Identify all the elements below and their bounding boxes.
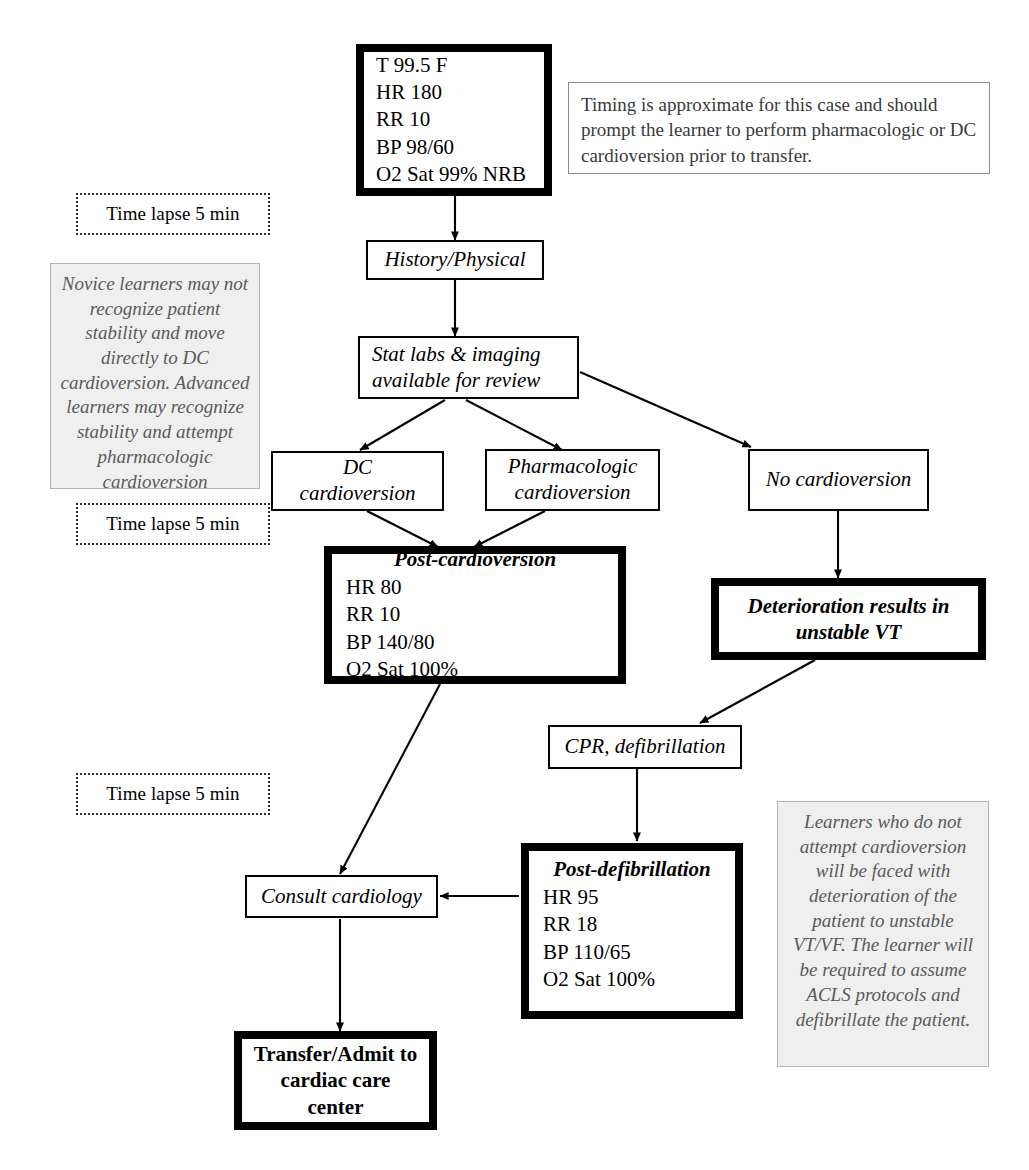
time-lapse-label: Time lapse 5 min <box>106 203 239 225</box>
note-text: Learners who do not attempt cardioversio… <box>793 811 973 1030</box>
node-post-cardioversion[interactable]: Post-cardioversion HR 80 RR 10 BP 140/80… <box>324 546 626 684</box>
node-stat-labs[interactable]: Stat labs & imaging available for review <box>358 336 579 399</box>
vital-line: HR 95 <box>543 884 721 911</box>
vital-line: RR 10 <box>376 106 532 133</box>
arrow-statlabs-to-dc <box>360 400 445 450</box>
arrow-pharm-to-postcv <box>474 511 545 547</box>
arrow-postcv-to-consult <box>340 684 440 874</box>
node-dc-cardioversion[interactable]: DC cardioversion <box>271 451 444 511</box>
node-label: Stat labs & imaging available for review <box>360 342 577 393</box>
note-text: Timing is approximate for this case and … <box>581 94 976 166</box>
vital-line: BP 98/60 <box>376 134 532 161</box>
time-lapse-label: Time lapse 5 min <box>106 513 239 535</box>
vital-line: O2 Sat 99% NRB <box>376 161 532 188</box>
vital-line: HR 80 <box>346 574 604 601</box>
node-transfer-admit[interactable]: Transfer/Admit to cardiac care center <box>234 1031 437 1130</box>
node-title: Post-cardioversion <box>346 547 604 572</box>
note-novice-learners: Novice learners may not recognize patien… <box>50 263 260 489</box>
arrow-dc-to-postcv <box>367 511 438 547</box>
time-lapse-callout-3: Time lapse 5 min <box>76 773 270 815</box>
vital-line: BP 110/65 <box>543 939 721 966</box>
node-consult-cardiology[interactable]: Consult cardiology <box>245 875 438 918</box>
arrow-statlabs-to-none <box>580 372 751 447</box>
note-timing: Timing is approximate for this case and … <box>568 82 990 174</box>
time-lapse-callout-1: Time lapse 5 min <box>76 193 270 235</box>
note-text: Novice learners may not recognize patien… <box>61 273 250 492</box>
node-deterioration[interactable]: Deterioration results in unstable VT <box>711 578 986 660</box>
node-initial-vitals[interactable]: T 99.5 F HR 180 RR 10 BP 98/60 O2 Sat 99… <box>356 44 552 196</box>
node-history-physical[interactable]: History/Physical <box>366 240 544 280</box>
vital-line: T 99.5 F <box>376 52 532 79</box>
vital-line: O2 Sat 100% <box>543 966 721 993</box>
node-label: History/Physical <box>368 247 542 273</box>
vital-line: HR 180 <box>376 79 532 106</box>
arrow-deterioration-to-cpr <box>700 660 815 723</box>
vital-line: RR 18 <box>543 911 721 938</box>
time-lapse-callout-2: Time lapse 5 min <box>76 503 270 545</box>
node-title: Post-defibrillation <box>543 857 721 882</box>
node-label: CPR, defibrillation <box>550 734 740 760</box>
vital-line: BP 140/80 <box>346 629 604 656</box>
node-label: Deterioration results in unstable VT <box>729 593 968 645</box>
node-no-cardioversion[interactable]: No cardioversion <box>748 449 929 511</box>
note-learners-acls: Learners who do not attempt cardioversio… <box>777 801 989 1067</box>
node-label: DC cardioversion <box>273 455 442 506</box>
node-post-defibrillation[interactable]: Post-defibrillation HR 95 RR 18 BP 110/6… <box>521 843 743 1019</box>
node-label: Consult cardiology <box>247 884 436 910</box>
node-label: Pharmacologic cardioversion <box>487 454 658 505</box>
vital-line: O2 Sat 100% <box>346 656 604 683</box>
arrow-statlabs-to-pharm <box>466 400 562 450</box>
node-label: Transfer/Admit to cardiac care center <box>252 1041 419 1120</box>
vital-line: RR 10 <box>346 601 604 628</box>
node-pharmacologic-cardioversion[interactable]: Pharmacologic cardioversion <box>485 449 660 511</box>
node-label: No cardioversion <box>750 467 927 493</box>
time-lapse-label: Time lapse 5 min <box>106 783 239 805</box>
flowchart-canvas: T 99.5 F HR 180 RR 10 BP 98/60 O2 Sat 99… <box>0 0 1029 1170</box>
node-cpr-defibrillation[interactable]: CPR, defibrillation <box>548 725 742 769</box>
